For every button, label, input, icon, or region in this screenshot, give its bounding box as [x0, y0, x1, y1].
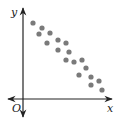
x-axis-label: x — [107, 102, 114, 115]
data-point — [88, 82, 93, 87]
data-point — [44, 40, 49, 45]
data-point — [83, 65, 88, 70]
data-point — [30, 20, 35, 25]
data-point — [96, 78, 101, 83]
data-point — [76, 72, 81, 77]
data-point — [55, 47, 60, 52]
scatter-plot: y O x — [0, 0, 124, 120]
data-point — [79, 57, 84, 62]
data-point — [88, 74, 93, 79]
data-point — [63, 57, 68, 62]
data-point — [39, 25, 44, 30]
data-point — [63, 40, 68, 45]
data-point — [99, 87, 104, 92]
data-point — [36, 31, 41, 36]
axes — [8, 8, 112, 117]
data-point — [66, 49, 71, 54]
data-point — [55, 37, 60, 42]
data-point — [71, 59, 76, 64]
origin-label: O — [12, 102, 21, 115]
data-point — [47, 30, 52, 35]
data-points — [30, 20, 104, 92]
y-axis-label: y — [10, 6, 18, 19]
